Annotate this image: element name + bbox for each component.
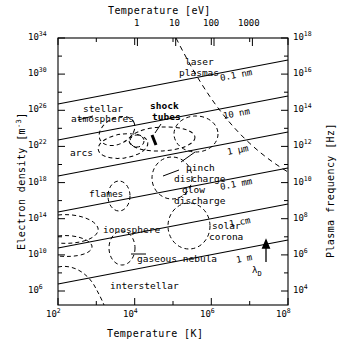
debye-subscript: D [257,270,261,278]
top-tick-label-10: 10 [169,19,180,28]
right-tick-label-0: 1018 [293,33,312,42]
tick-exponent: 6 [304,247,308,255]
tick-exponent: 8 [304,211,308,219]
tick-exponent: 12 [304,138,312,146]
region-label-solar-corona-line2: corona [209,232,243,242]
bottom-tick-label-3: 108 [276,310,291,319]
region-label-interstellar: interstellar [110,281,179,291]
bottom-tick-label-2: 106 [200,310,215,319]
left-axis-title: Electron density [m-3] [16,112,27,250]
region-label-arcs: arcs [70,148,93,158]
left-tick-label-6: 1010 [28,250,47,259]
region-label-laser-plasmas-line1: laser [185,57,214,67]
tick-exponent: 4 [134,307,138,315]
tick-exponent: 30 [39,66,47,74]
tick-exponent: 10 [304,175,312,183]
tick-mantissa: 10 [293,213,304,223]
debye-line-0-1nm [58,60,288,104]
left-tick-label-0: 1034 [28,33,47,42]
tick-mantissa: 10 [28,285,39,295]
tick-exponent: 18 [39,175,47,183]
top-tick-label-1: 1 [134,19,139,28]
tick-mantissa: 10 [293,104,304,114]
tick-exponent: 6 [39,283,43,291]
region-label-shock-tubes-line2: tubes [152,112,181,122]
right-tick-label-4: 1010 [293,178,312,187]
tick-mantissa: 10 [46,309,57,319]
region-outline-arcs [97,131,150,162]
tick-exponent: 2 [57,307,61,315]
left-tick-label-7: 106 [28,286,43,295]
debye-length-label: λD [252,265,262,275]
left-axis-title-text: Electron density [m [16,128,27,250]
tick-mantissa: 10 [293,140,304,150]
tick-exponent: 26 [39,102,47,110]
tick-mantissa: 10 [200,309,211,319]
left-tick-label-1: 1030 [28,69,47,78]
tick-mantissa: 10 [28,32,39,42]
right-axis-title: Plasma frequency [Hz] [326,123,336,258]
region-label-flames: flames [89,189,123,199]
left-tick-label-3: 1022 [28,141,47,150]
tick-exponent: 6 [211,307,215,315]
tick-exponent: 4 [304,283,308,291]
left-tick-label-5: 1014 [28,214,47,223]
right-tick-label-3: 1012 [293,141,312,150]
tick-mantissa: 10 [28,213,39,223]
tick-exponent: 22 [39,138,47,146]
leader-pinch [181,152,195,162]
region-outline-shock-tubes [128,125,195,152]
tick-exponent: 14 [304,102,312,110]
right-tick-label-2: 1014 [293,105,312,114]
region-label-pinch-discharge-line1: pinch [186,163,215,173]
tick-exponent: 16 [304,66,312,74]
region-label-pinch-discharge-line2: discharge [174,174,225,184]
tick-mantissa: 10 [276,309,287,319]
region-label-stellar-atmospheres-line2: atmospheres [71,114,134,124]
right-tick-label-5: 108 [293,214,308,223]
bottom-tick-label-1: 104 [123,310,138,319]
tick-mantissa: 10 [293,32,304,42]
tick-exponent: 34 [39,30,47,38]
region-label-gaseous-nebula: gaseous nebula [137,254,217,264]
tick-mantissa: 10 [28,140,39,150]
tick-mantissa: 10 [293,177,304,187]
bottom-tick-label-0: 102 [46,310,61,319]
plasma-regime-chart: Temperature [eV] Temperature [K] Electro… [0,0,339,351]
tick-mantissa: 10 [293,68,304,78]
region-outline-interstellar [58,266,104,305]
region-label-ionosphere: ionosphere [103,225,160,235]
left-tick-label-2: 1026 [28,105,47,114]
tick-exponent: 18 [304,30,312,38]
tick-mantissa: 10 [293,285,304,295]
region-label-glow-discharge-line1: glow [182,185,205,195]
right-tick-label-1: 1016 [293,69,312,78]
region-label-laser-plasmas-line2: plasmas [179,68,219,78]
shock-tubes-marker [152,135,156,145]
region-label-solar-corona-line1: solar [212,221,241,231]
tick-mantissa: 10 [293,249,304,259]
tick-mantissa: 10 [28,104,39,114]
bottom-axis-title: Temperature [K] [107,329,203,339]
tick-mantissa: 10 [28,68,39,78]
top-axis-title: Temperature [eV] [108,6,211,16]
tick-mantissa: 10 [28,249,39,259]
region-label-glow-discharge-line2: discharge [174,196,225,206]
tick-exponent: 10 [39,247,47,255]
left-tick-label-4: 1018 [28,178,47,187]
top-tick-label-100: 100 [203,19,219,28]
left-axis-title-exponent: -3 [15,119,23,128]
region-outline-inner-loop [130,135,144,147]
region-outline-ionosphere-lower [58,236,92,257]
tick-exponent: 14 [39,211,47,219]
tick-mantissa: 10 [123,309,134,319]
top-tick-label-1000: 1000 [238,19,260,28]
right-tick-label-6: 106 [293,250,308,259]
tick-exponent: 8 [287,307,291,315]
left-axis-title-bracket: ] [16,112,27,118]
tick-mantissa: 10 [28,177,39,187]
right-tick-label-7: 104 [293,286,308,295]
leader-shock [155,124,161,133]
chart-canvas [0,0,339,351]
region-label-shock-tubes-line1: shock [150,101,179,111]
